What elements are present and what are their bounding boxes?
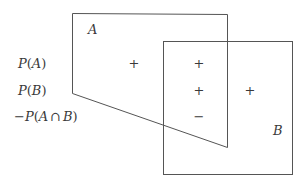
- minus-sign-intersection: −: [194, 109, 205, 124]
- plus-sign-b-only: +: [245, 83, 256, 98]
- set-a-label: A: [87, 22, 97, 37]
- term-minus-p-a-intersect-b: −P(A∩B): [14, 109, 78, 124]
- plus-sign-intersection-pb: +: [194, 83, 205, 98]
- set-b-label: B: [272, 123, 283, 138]
- plus-sign-intersection-pa: +: [194, 56, 205, 71]
- term-p-a: P(A): [17, 56, 46, 71]
- venn-diagram: A B P(A) P(B) −P(A∩B) + + + + −: [0, 0, 306, 181]
- term-p-b: P(B): [17, 83, 46, 98]
- plus-sign-a-only: +: [129, 56, 140, 71]
